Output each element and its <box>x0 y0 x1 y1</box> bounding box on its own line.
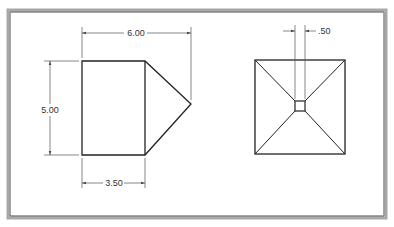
dimension-text-0-5: .50 <box>318 26 331 36</box>
dimension-height: 5.00 <box>41 61 79 155</box>
dimension-apex-width: .50 <box>283 25 331 99</box>
dimension-text-6: 6.00 <box>127 28 145 38</box>
pyramid-apex-square <box>295 101 305 111</box>
dimension-text-3-5: 3.50 <box>105 178 123 188</box>
dimension-body-width: 3.50 <box>82 158 145 188</box>
pyramid-view: .50 <box>255 25 345 154</box>
front-view-outline <box>82 61 191 155</box>
front-view: 6.00 5.00 3.50 <box>41 27 191 188</box>
technical-drawing: 6.00 5.00 3.50 <box>0 0 394 227</box>
drawing-frame <box>8 10 386 218</box>
dimension-text-5: 5.00 <box>41 105 59 115</box>
